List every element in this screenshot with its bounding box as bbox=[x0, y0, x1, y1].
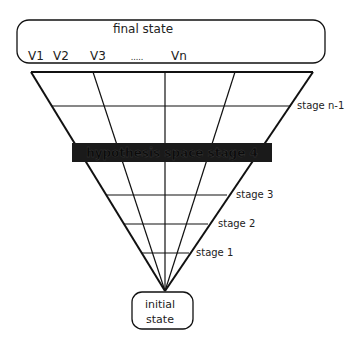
stage-lines bbox=[31, 72, 313, 253]
funnel-left-edge bbox=[31, 72, 165, 291]
final-state-title: final state bbox=[113, 22, 173, 36]
variable-ellipsis: ..... bbox=[131, 53, 144, 62]
initial-state-box: initial state bbox=[132, 292, 193, 329]
hypothesis-band: hypothesis space stage 4 bbox=[72, 143, 272, 162]
stage-3-label: stage 3 bbox=[236, 189, 273, 200]
hypothesis-band-label: hypothesis space stage 4 bbox=[86, 146, 258, 160]
funnel-lines bbox=[31, 72, 313, 291]
stage-2-label: stage 2 bbox=[218, 218, 255, 229]
funnel-inner-line-1 bbox=[93, 72, 165, 291]
variable-v2: V2 bbox=[53, 49, 69, 63]
stage-n-1-label: stage n-1 bbox=[297, 100, 344, 111]
initial-state-line2: state bbox=[146, 313, 174, 326]
stage-1-label: stage 1 bbox=[196, 247, 233, 258]
final-state-box: final state V1 V2 V3 ..... Vn bbox=[17, 20, 325, 63]
variable-vn: Vn bbox=[171, 49, 187, 63]
variable-v1: V1 bbox=[28, 49, 44, 63]
hypothesis-space-diagram: final state V1 V2 V3 ..... Vn hypothesis… bbox=[0, 0, 357, 344]
funnel-inner-line-3 bbox=[165, 72, 235, 291]
funnel-right-edge bbox=[165, 72, 313, 291]
variable-v3: V3 bbox=[90, 49, 106, 63]
initial-state-line1: initial bbox=[145, 298, 175, 311]
